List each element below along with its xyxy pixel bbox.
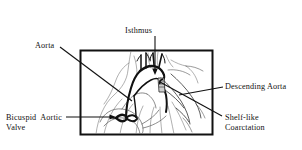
label-shelf-line-1: Shelf-like [225, 113, 259, 122]
coarctation-diagram: Isthmus Aorta Descending Aorta Shelf-lik… [0, 0, 302, 150]
label-shelf-line-2: Coarctation [225, 123, 265, 132]
label-bicuspid-line-1: Bicuspid Aortic [6, 113, 62, 122]
label-descending-aorta: Descending Aorta [225, 82, 286, 92]
label-bicuspid-aortic-valve: Bicuspid AorticValve [6, 113, 62, 133]
coarctation-shelf [158, 78, 165, 92]
label-bicuspid-line-2: Valve [6, 123, 25, 132]
arrowhead-isthmus [152, 69, 158, 76]
label-aorta: Aorta [35, 41, 54, 51]
anatomy-sketch [96, 51, 205, 134]
label-shelf-like-coarctation: Shelf-likeCoarctation [225, 113, 265, 133]
leader-line-aorta [60, 47, 132, 101]
label-isthmus: Isthmus [125, 26, 152, 36]
